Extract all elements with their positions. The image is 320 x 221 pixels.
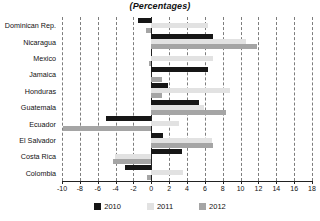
bar <box>151 67 207 72</box>
x-axis-tick-labels: -10-8-6-4-2024681012141618 <box>0 185 320 197</box>
bar <box>125 165 152 170</box>
x-axis-tick <box>116 181 117 184</box>
bar <box>63 126 151 131</box>
bar <box>151 88 230 93</box>
bar <box>146 28 151 33</box>
gridline <box>80 17 81 181</box>
x-axis-tick-label: -8 <box>77 185 83 192</box>
legend-item[interactable]: 2012 <box>199 202 226 211</box>
x-axis-tick <box>80 181 81 184</box>
x-axis-tick <box>62 181 63 184</box>
gridline <box>98 17 99 181</box>
x-axis-tick-label: 0 <box>149 185 153 192</box>
legend-item[interactable]: 2011 <box>147 202 173 211</box>
chart-legend: 201020112012 <box>0 202 320 211</box>
x-axis-tick <box>133 181 134 184</box>
bar <box>147 175 151 180</box>
x-axis-tick <box>294 181 295 184</box>
bar <box>151 143 213 148</box>
bar <box>138 18 151 23</box>
x-axis-tick <box>169 181 170 184</box>
legend-swatch-icon <box>94 203 101 210</box>
bar <box>151 149 181 154</box>
x-axis-tick-label: 4 <box>185 185 189 192</box>
x-axis-tick-label: 6 <box>203 185 207 192</box>
x-axis-tick-label: -2 <box>130 185 136 192</box>
x-axis-tick-label: 14 <box>272 185 280 192</box>
x-axis-tick-label: -6 <box>95 185 101 192</box>
bar <box>151 56 213 61</box>
x-axis-tick <box>151 181 152 184</box>
bar <box>113 159 151 164</box>
bar <box>151 77 162 82</box>
y-axis-category-label: Mexico <box>33 54 56 63</box>
x-axis-tick-label: 18 <box>308 185 316 192</box>
x-axis-tick <box>205 181 206 184</box>
legend-label: 2011 <box>157 202 173 211</box>
y-axis-category-label: Nicaragua <box>23 37 56 46</box>
x-axis-tick-label: 2 <box>167 185 171 192</box>
x-axis-tick-label: 12 <box>255 185 263 192</box>
y-axis-category-label: Colombia <box>26 168 56 177</box>
bar <box>151 93 162 98</box>
bar <box>149 61 152 66</box>
y-axis-category-label: Honduras <box>25 86 56 95</box>
x-axis-tick <box>187 181 188 184</box>
y-axis-category-label: El Salvador <box>19 136 56 145</box>
bar <box>151 23 208 28</box>
bar <box>151 44 256 49</box>
x-axis-tick-label: -10 <box>57 185 67 192</box>
x-axis-tick <box>98 181 99 184</box>
bar <box>151 121 179 126</box>
y-axis-category-label: Ecuador <box>29 119 56 128</box>
legend-label: 2012 <box>209 202 226 211</box>
gridline <box>258 17 259 181</box>
x-axis-tick <box>312 181 313 184</box>
gridline <box>294 17 295 181</box>
gridline <box>312 17 313 181</box>
y-axis-category-label: Dominican Rep. <box>5 21 56 30</box>
chart-title: (Percentages) <box>0 1 320 11</box>
bar <box>151 110 226 115</box>
y-axis-category-label: Guatemala <box>21 103 56 112</box>
legend-item[interactable]: 2010 <box>94 202 121 211</box>
bar-chart: (Percentages) Dominican Rep.NicaraguaMex… <box>0 0 320 221</box>
y-axis-category-label: Costa Rica <box>21 152 56 161</box>
x-axis-tick-label: 16 <box>290 185 298 192</box>
legend-label: 2010 <box>104 202 121 211</box>
y-axis-category-label: Jamaica <box>29 70 56 79</box>
x-axis-tick <box>223 181 224 184</box>
x-axis-tick <box>276 181 277 184</box>
bar <box>106 116 152 121</box>
x-axis-tick-label: 8 <box>221 185 225 192</box>
y-axis-category-labels: Dominican Rep.NicaraguaMexicoJamaicaHond… <box>0 17 60 181</box>
x-axis-tick-label: 10 <box>237 185 245 192</box>
bar <box>151 170 182 175</box>
x-axis-tick-label: -4 <box>112 185 118 192</box>
legend-swatch-icon <box>147 203 154 210</box>
x-axis-tick <box>258 181 259 184</box>
gridline <box>62 17 63 181</box>
gridline <box>276 17 277 181</box>
plot-area <box>62 17 312 181</box>
x-axis-tick <box>241 181 242 184</box>
legend-swatch-icon <box>199 203 206 210</box>
